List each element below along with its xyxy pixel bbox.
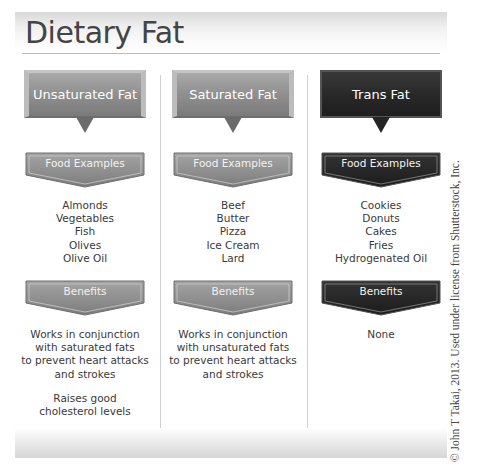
food-item: Olive Oil <box>20 252 150 265</box>
benefit-line: Raises good <box>20 392 150 405</box>
food-list: Beef Butter Pizza Ice Cream Lard <box>168 199 298 265</box>
food-item: Fish <box>20 225 150 238</box>
benefits-ribbon: Benefits <box>173 280 293 316</box>
benefit-item: Raises good cholesterol levels <box>20 392 150 418</box>
heading-box: Saturated Fat <box>172 70 294 118</box>
column-divider-1 <box>160 75 161 432</box>
food-examples-label: Food Examples <box>25 157 145 169</box>
food-item: Vegetables <box>20 212 150 225</box>
food-list: Cookies Donuts Cakes Fries Hydrogenated … <box>316 199 446 265</box>
benefit-line: and strokes <box>20 368 150 381</box>
benefits-list: None <box>316 328 446 341</box>
benefit-item: None <box>316 328 446 341</box>
food-examples-ribbon: Food Examples <box>25 152 145 188</box>
benefits-ribbon: Benefits <box>321 280 441 316</box>
heading-callout: Trans Fat <box>320 70 442 118</box>
benefits-ribbon: Benefits <box>25 280 145 316</box>
benefits-label: Benefits <box>25 285 145 297</box>
benefit-line: to prevent heart attacks <box>168 354 298 367</box>
benefits-label: Benefits <box>321 285 441 297</box>
food-item: Cookies <box>316 199 446 212</box>
benefit-line: to prevent heart attacks <box>20 354 150 367</box>
food-item: Ice Cream <box>168 239 298 252</box>
benefit-item: Works in conjunction with saturated fats… <box>20 328 150 381</box>
benefits-list: Works in conjunction with saturated fats… <box>20 328 150 418</box>
food-examples-ribbon: Food Examples <box>173 152 293 188</box>
column-unsaturated-fat: Unsaturated Fat Food Examples Almonds Ve… <box>20 70 150 429</box>
benefit-line: and strokes <box>168 368 298 381</box>
food-examples-label: Food Examples <box>321 157 441 169</box>
food-examples-ribbon: Food Examples <box>321 152 441 188</box>
callout-pointer-icon <box>372 117 390 133</box>
benefit-line: Works in conjunction <box>168 328 298 341</box>
column-trans-fat: Trans Fat Food Examples Cookies Donuts C… <box>316 70 446 352</box>
benefits-list: Works in conjunction with unsaturated fa… <box>168 328 298 381</box>
food-item: Almonds <box>20 199 150 212</box>
food-item: Lard <box>168 252 298 265</box>
food-item: Butter <box>168 212 298 225</box>
callout-pointer-icon <box>76 117 94 133</box>
heading-callout: Unsaturated Fat <box>24 70 146 118</box>
copyright-notice: © John T Takai, 2013. Used under license… <box>449 172 461 462</box>
bottom-band <box>15 428 447 458</box>
food-list: Almonds Vegetables Fish Olives Olive Oil <box>20 199 150 265</box>
food-item: Hydrogenated Oil <box>316 252 446 265</box>
benefit-line: with unsaturated fats <box>168 341 298 354</box>
column-saturated-fat: Saturated Fat Food Examples Beef Butter … <box>168 70 298 392</box>
heading-box: Unsaturated Fat <box>24 70 146 118</box>
benefit-line: with saturated fats <box>20 341 150 354</box>
food-item: Fries <box>316 239 446 252</box>
food-item: Olives <box>20 239 150 252</box>
heading-box: Trans Fat <box>320 70 442 118</box>
food-item: Cakes <box>316 225 446 238</box>
benefit-line: Works in conjunction <box>20 328 150 341</box>
page-title: Dietary Fat <box>25 15 184 50</box>
food-item: Pizza <box>168 225 298 238</box>
benefit-line: cholesterol levels <box>20 405 150 418</box>
callout-pointer-icon <box>224 117 242 133</box>
benefits-label: Benefits <box>173 285 293 297</box>
benefit-item: Works in conjunction with unsaturated fa… <box>168 328 298 381</box>
food-examples-label: Food Examples <box>173 157 293 169</box>
benefit-line: None <box>316 328 446 341</box>
heading-callout: Saturated Fat <box>172 70 294 118</box>
food-item: Donuts <box>316 212 446 225</box>
column-divider-2 <box>307 75 308 432</box>
food-item: Beef <box>168 199 298 212</box>
title-underline <box>22 53 440 54</box>
